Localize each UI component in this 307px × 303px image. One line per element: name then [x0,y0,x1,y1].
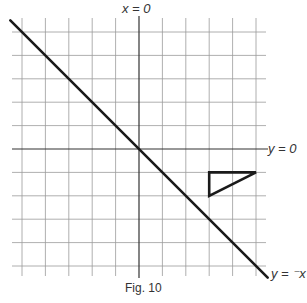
label-y-equals-minus-x: y = ⁻x [271,266,306,281]
graph-canvas [0,0,307,303]
label-x-equals-0: x = 0 [122,1,151,16]
label-y-equals-0: y = 0 [268,141,297,156]
figure-caption: Fig. 10 [125,281,162,295]
